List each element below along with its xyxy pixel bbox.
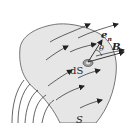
surface-label: S [76,115,83,123]
diagram-graphic [0,0,133,123]
field-label: B [112,42,120,52]
angle-label: θ [99,45,104,53]
flux-diagram: en θ B dS S [0,0,133,123]
area-element-label: dS [70,66,83,76]
normal-label: en [101,30,112,42]
